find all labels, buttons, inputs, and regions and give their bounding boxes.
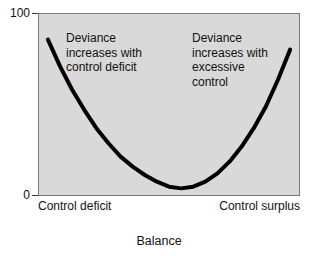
x-axis-label-left: Control deficit: [38, 200, 111, 214]
annotation-right-line-3: excessive: [192, 60, 268, 75]
annotation-left-line-1: Deviance: [66, 31, 142, 46]
x-axis-label-left-line-2: deficit: [80, 199, 111, 213]
x-axis-label-right-line-1: Control: [219, 199, 258, 213]
annotation-control-deficit: Deviance increases with control deficit: [66, 31, 142, 75]
x-axis-label-right-line-2: surplus: [261, 199, 300, 213]
x-axis-label-left-line-1: Control: [38, 199, 77, 213]
y-axis-label-max: 100: [0, 7, 30, 19]
annotation-right-line-1: Deviance: [192, 31, 268, 46]
deviance-balance-chart: 100 0 Deviance increases with control de…: [0, 0, 318, 256]
y-axis-label-min: 0: [10, 189, 30, 201]
x-axis-label-right: Control surplus: [219, 200, 300, 214]
annotation-left-line-3: control deficit: [66, 60, 142, 75]
annotation-excessive-control: Deviance increases with excessive contro…: [192, 31, 268, 89]
annotation-right-line-4: control: [192, 75, 268, 90]
annotation-right-line-2: increases with: [192, 46, 268, 61]
x-axis-title: Balance: [0, 234, 318, 248]
annotation-left-line-2: increases with: [66, 46, 142, 61]
